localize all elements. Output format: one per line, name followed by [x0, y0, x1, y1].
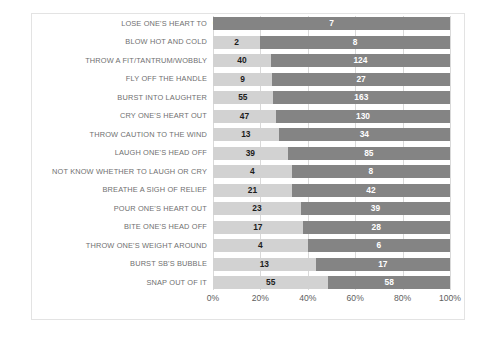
bar-track: 2339 [213, 202, 450, 215]
bar-track: 48 [213, 165, 450, 178]
bar-segment-b[interactable]: 130 [276, 110, 450, 123]
bar-row: THROW A FIT/TANTRUM/WOBBLY40124 [32, 53, 450, 68]
gridline [450, 16, 451, 290]
category-label: SNAP OUT OF IT [32, 279, 213, 286]
bar-segment-b[interactable]: 6 [308, 239, 450, 252]
bar-segment-b[interactable]: 42 [292, 184, 450, 197]
bar-segment-b[interactable]: 85 [288, 147, 450, 160]
category-label: BITE ONE'S HEAD OFF [32, 223, 213, 230]
bar-track: 3985 [213, 147, 450, 160]
bar-row: LAUGH ONE'S HEAD OFF3985 [32, 146, 450, 161]
bar-segment-a[interactable]: 17 [213, 221, 303, 234]
bar-track: 1317 [213, 258, 450, 271]
bar-track: 2142 [213, 184, 450, 197]
bar-value-a: 39 [246, 149, 255, 157]
bar-segment-b[interactable]: 27 [272, 73, 450, 86]
bar-segment-a[interactable]: 21 [213, 184, 292, 197]
bar-segment-a[interactable]: 4 [213, 239, 308, 252]
category-label: NOT KNOW WHETHER TO LAUGH OR CRY [32, 168, 213, 175]
bar-segment-b[interactable]: 58 [328, 276, 450, 289]
bar-segment-a[interactable]: 13 [213, 128, 279, 141]
x-tick-label: 80% [394, 294, 411, 303]
bar-value-b: 85 [364, 149, 373, 157]
bar-track: 28 [213, 36, 450, 49]
bar-value-a: 17 [253, 223, 262, 231]
category-label: THROW A FIT/TANTRUM/WOBBLY [32, 57, 213, 64]
bar-segment-b[interactable]: 34 [279, 128, 450, 141]
bar-value-a: 40 [237, 56, 246, 64]
bar-row: BLOW HOT AND COLD28 [32, 35, 450, 50]
category-label: BLOW HOT AND COLD [32, 38, 213, 45]
bar-row: BITE ONE'S HEAD OFF1728 [32, 220, 450, 235]
x-tick-label: 20% [252, 294, 269, 303]
bar-value-b: 124 [353, 56, 367, 64]
bar-value-b: 8 [369, 167, 374, 175]
bar-row: BREATHE A SIGH OF RELIEF2142 [32, 183, 450, 198]
bar-segment-a[interactable]: 23 [213, 202, 301, 215]
category-label: BREATHE A SIGH OF RELIEF [32, 186, 213, 193]
bar-track: 07 [213, 17, 450, 30]
bar-value-b: 6 [377, 241, 382, 249]
bar-row: BURST SB'S BUBBLE1317 [32, 257, 450, 272]
category-label: FLY OFF THE HANDLE [32, 75, 213, 82]
bar-track: 40124 [213, 54, 450, 67]
bar-segment-a[interactable]: 55 [213, 91, 273, 104]
bar-segment-b[interactable]: 8 [260, 36, 450, 49]
bar-segment-b[interactable]: 124 [271, 54, 450, 67]
x-tick-label: 60% [347, 294, 364, 303]
bar-row: THROW ONE'S WEIGHT AROUND46 [32, 238, 450, 253]
category-label: LOSE ONE'S HEART TO [32, 20, 213, 27]
category-label: LAUGH ONE'S HEAD OFF [32, 149, 213, 156]
bar-value-b: 130 [356, 112, 370, 120]
bar-value-b: 39 [371, 204, 380, 212]
category-label: THROW ONE'S WEIGHT AROUND [32, 242, 213, 249]
bar-value-b: 27 [356, 75, 365, 83]
bar-row: SNAP OUT OF IT5558 [32, 275, 450, 290]
bar-track: 927 [213, 73, 450, 86]
bar-value-a: 55 [266, 278, 275, 286]
x-tick-label: 0% [207, 294, 219, 303]
bar-segment-a[interactable]: 55 [213, 276, 328, 289]
bar-row: THROW CAUTION TO THE WIND1334 [32, 127, 450, 142]
bar-value-a: 4 [250, 167, 255, 175]
bar-row: NOT KNOW WHETHER TO LAUGH OR CRY48 [32, 164, 450, 179]
bar-value-a: 4 [258, 241, 263, 249]
bar-segment-b[interactable]: 163 [273, 91, 450, 104]
category-label: CRY ONE'S HEART OUT [32, 112, 213, 119]
bar-value-b: 8 [353, 38, 358, 46]
x-tick-label: 100% [439, 294, 461, 303]
bar-value-a: 9 [240, 75, 245, 83]
bar-segment-a[interactable]: 9 [213, 73, 272, 86]
bar-track: 55163 [213, 91, 450, 104]
bar-segment-a[interactable]: 4 [213, 165, 292, 178]
category-label: BURST INTO LAUGHTER [32, 94, 213, 101]
bar-segment-b[interactable]: 8 [292, 165, 450, 178]
category-label: BURST SB'S BUBBLE [32, 260, 213, 267]
bar-segment-b[interactable]: 39 [301, 202, 450, 215]
bar-segment-b[interactable]: 17 [316, 258, 450, 271]
bar-segment-b[interactable]: 28 [303, 221, 450, 234]
chart-frame: LOSE ONE'S HEART TO07BLOW HOT AND COLD28… [31, 13, 465, 320]
bar-value-b: 28 [372, 223, 381, 231]
bar-value-a: 23 [252, 204, 261, 212]
category-label: THROW CAUTION TO THE WIND [32, 131, 213, 138]
bar-segment-a[interactable]: 39 [213, 147, 288, 160]
bar-value-a: 55 [238, 93, 247, 101]
bar-row: CRY ONE'S HEART OUT47130 [32, 109, 450, 124]
bar-track: 46 [213, 239, 450, 252]
bar-rows-container: LOSE ONE'S HEART TO07BLOW HOT AND COLD28… [32, 16, 450, 290]
bar-value-b: 163 [354, 93, 368, 101]
bar-segment-a[interactable]: 47 [213, 110, 276, 123]
bar-value-a: 21 [248, 186, 257, 194]
bar-value-b: 42 [366, 186, 375, 194]
bar-row: FLY OFF THE HANDLE927 [32, 72, 450, 87]
bar-segment-b[interactable]: 7 [213, 17, 450, 30]
bar-value-b: 58 [385, 278, 394, 286]
category-label: POUR ONE'S HEART OUT [32, 205, 213, 212]
bar-segment-a[interactable]: 40 [213, 54, 271, 67]
bar-segment-a[interactable]: 2 [213, 36, 260, 49]
bar-value-b: 34 [360, 130, 369, 138]
bar-row: BURST INTO LAUGHTER55163 [32, 90, 450, 105]
bar-segment-a[interactable]: 13 [213, 258, 316, 271]
bar-value-b: 7 [329, 19, 334, 27]
